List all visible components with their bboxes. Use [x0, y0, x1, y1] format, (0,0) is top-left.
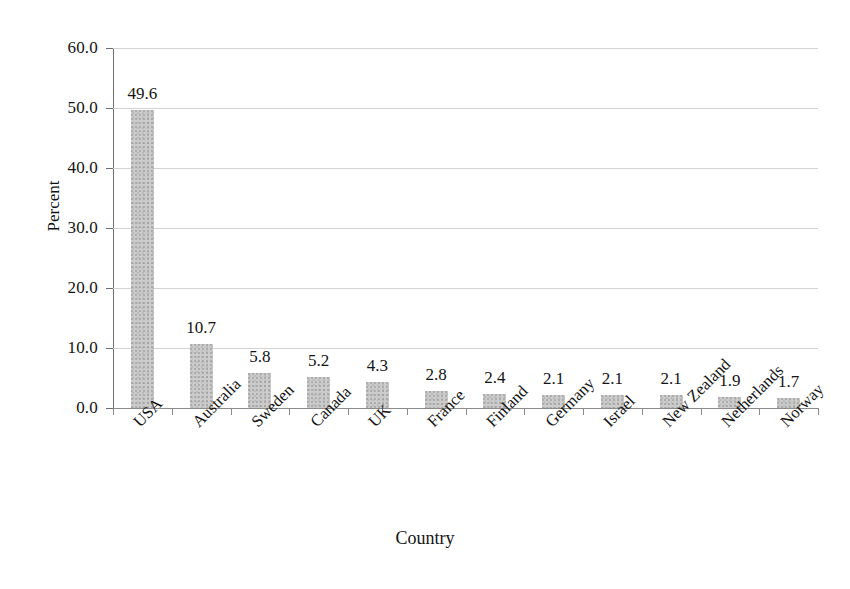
x-axis-tick [289, 408, 290, 415]
x-axis-title: Country [0, 528, 850, 549]
bar-value-label: 5.2 [289, 352, 349, 369]
x-axis-tick [583, 408, 584, 415]
x-axis-tick [172, 408, 173, 415]
y-axis-tick [106, 108, 113, 109]
y-axis-tick [106, 48, 113, 49]
x-axis-tick [466, 408, 467, 415]
y-axis-tick [106, 228, 113, 229]
x-axis-tick [759, 408, 760, 415]
x-axis-tick [348, 408, 349, 415]
x-axis-tick [818, 408, 819, 415]
y-axis-tick [106, 408, 113, 409]
x-axis-tick [701, 408, 702, 415]
x-axis-tick [113, 408, 114, 415]
bar-value-label: 5.8 [230, 348, 290, 365]
bar-value-label: 10.7 [171, 319, 231, 336]
gridline [113, 228, 818, 229]
gridline [113, 288, 818, 289]
y-axis-tick [106, 168, 113, 169]
y-axis-tick-label: 50.0 [36, 99, 98, 116]
bar-value-label: 49.6 [112, 85, 172, 102]
y-axis-tick [106, 348, 113, 349]
x-axis-tick [407, 408, 408, 415]
plot-area [113, 48, 818, 408]
gridline [113, 48, 818, 49]
y-axis-tick-label: 20.0 [36, 279, 98, 296]
x-axis-tick [231, 408, 232, 415]
gridline [113, 168, 818, 169]
y-axis-tick [106, 288, 113, 289]
y-axis-title: Percent [44, 146, 64, 266]
y-axis-tick-label: 0.0 [36, 399, 98, 416]
bar-chart: 0.010.020.030.040.050.060.0 Percent 49.6… [0, 0, 850, 589]
gridline [113, 348, 818, 349]
x-axis-tick [524, 408, 525, 415]
bar [131, 110, 154, 408]
bar-value-label: 4.3 [347, 357, 407, 374]
x-axis-tick [642, 408, 643, 415]
y-axis-tick-label: 10.0 [36, 339, 98, 356]
bar-value-label: 2.8 [406, 366, 466, 383]
gridline [113, 108, 818, 109]
y-axis-tick-label: 60.0 [36, 39, 98, 56]
